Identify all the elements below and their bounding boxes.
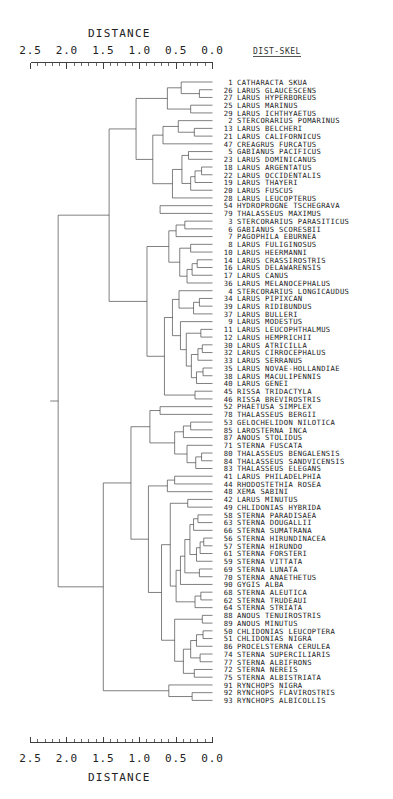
dendrogram-figure: DISTANCE DIST-SKEL 2.52.01.51.00.50.0 2.… bbox=[0, 0, 393, 799]
dendrogram-tree bbox=[0, 0, 393, 799]
axis-rules bbox=[31, 63, 213, 743]
tree-links bbox=[50, 82, 212, 700]
